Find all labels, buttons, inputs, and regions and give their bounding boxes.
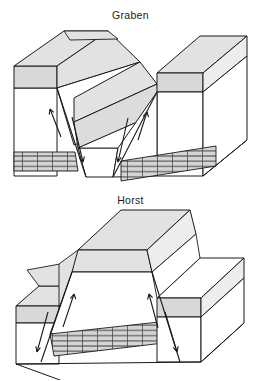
graben-figure: Graben	[0, 0, 261, 190]
horst-figure: Horst	[0, 190, 261, 380]
graben-left-marker-bed	[10, 149, 85, 173]
horst-block-diagram	[0, 190, 261, 380]
graben-block-diagram	[0, 0, 261, 190]
graben-trough-floor	[78, 148, 118, 177]
horst-right-bedrock-face	[157, 317, 201, 362]
horst-crest-soil-band	[72, 250, 152, 272]
horst-left-soil-face	[16, 306, 59, 323]
graben-right-soil-face	[157, 73, 203, 92]
graben-left-soil-face	[14, 66, 57, 88]
graben-left-rear-ridge	[64, 31, 118, 40]
